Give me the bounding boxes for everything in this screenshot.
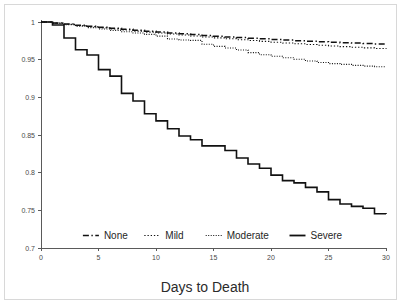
legend-label-severe: Severe xyxy=(311,230,343,241)
series-line-none xyxy=(41,22,386,44)
chart-legend: NoneMildModerateSevere xyxy=(83,230,343,241)
series-lines xyxy=(41,22,386,214)
legend-label-none: None xyxy=(104,230,128,241)
y-tick-label: 0.75 xyxy=(21,207,35,214)
y-tick-label: 0.7 xyxy=(25,245,35,252)
x-tick-label: 30 xyxy=(382,254,390,261)
legend-label-moderate: Moderate xyxy=(227,230,270,241)
chart-canvas: 0.70.750.80.850.90.951 051015202530 None… xyxy=(0,0,403,306)
series-line-severe xyxy=(41,22,386,214)
y-tick-label: 0.9 xyxy=(25,94,35,101)
y-tick-label: 1 xyxy=(31,19,35,26)
x-tick-label: 5 xyxy=(97,254,101,261)
x-axis-title: Days to Death xyxy=(161,279,250,295)
y-tick-label: 0.95 xyxy=(21,56,35,63)
legend-label-mild: Mild xyxy=(165,230,183,241)
y-axis-ticks: 0.70.750.80.850.90.951 xyxy=(21,19,41,252)
x-tick-label: 20 xyxy=(267,254,275,261)
series-line-moderate xyxy=(41,22,386,67)
x-axis-ticks: 051015202530 xyxy=(39,248,390,261)
y-tick-label: 0.85 xyxy=(21,132,35,139)
survival-curve-figure: 0.70.750.80.850.90.951 051015202530 None… xyxy=(0,0,403,306)
y-tick-label: 0.8 xyxy=(25,169,35,176)
x-tick-label: 15 xyxy=(210,254,218,261)
x-tick-label: 0 xyxy=(39,254,43,261)
x-tick-label: 10 xyxy=(152,254,160,261)
x-tick-label: 25 xyxy=(325,254,333,261)
